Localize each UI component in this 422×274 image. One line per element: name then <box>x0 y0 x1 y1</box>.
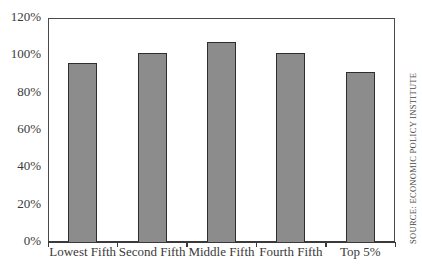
bar <box>138 53 167 242</box>
bar <box>68 63 97 242</box>
x-tick-label: Lowest Fifth <box>48 244 117 260</box>
y-tick-label: 100% <box>11 47 41 61</box>
bar <box>346 72 375 242</box>
x-tick-label: Second Fifth <box>117 244 186 260</box>
source-note: SOURCE: ECONOMIC POLICY INSTITUTE <box>408 73 418 244</box>
y-tick-label: 20% <box>17 197 41 211</box>
x-tick-label: Middle Fifth <box>187 244 256 260</box>
y-tick-label: 120% <box>11 10 41 24</box>
y-tick-label: 80% <box>17 85 41 99</box>
y-tick-label: 60% <box>17 122 41 136</box>
y-tick-label: 40% <box>17 159 41 173</box>
bar <box>276 53 305 242</box>
y-tick-label: 0% <box>24 234 41 248</box>
x-tick-label: Top 5% <box>326 244 395 260</box>
bar <box>207 42 236 242</box>
x-tick-label: Fourth Fifth <box>256 244 325 260</box>
bar-chart: 0%20%40%60%80%100%120% Lowest FifthSecon… <box>0 0 422 274</box>
